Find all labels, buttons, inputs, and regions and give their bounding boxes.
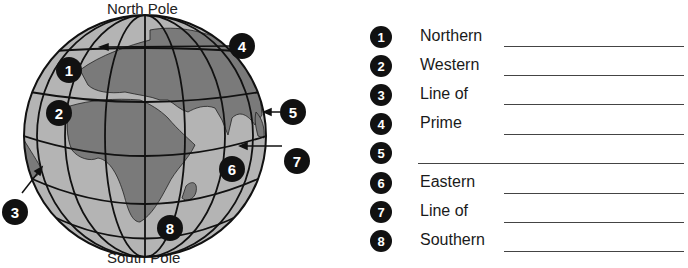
worksheet-row-5: 5 [370,140,688,170]
term-label: Prime [420,114,462,132]
term-label: Line of [420,85,468,103]
globe-callout-6: 6 [219,156,245,182]
answer-blank[interactable] [504,104,684,105]
term-label: Northern [420,27,482,45]
worksheet-row-3: 3 Line of [370,82,688,112]
worksheet-row-2: 2 Western [370,53,688,83]
number-badge: 4 [370,113,392,135]
answer-blank[interactable] [504,46,684,47]
globe-callout-8: 8 [157,215,183,241]
globe-callout-3: 3 [2,199,28,225]
globe-callout-4: 4 [229,33,255,59]
worksheet-row-6: 6 Eastern [370,170,688,200]
answer-blank[interactable] [504,134,684,135]
number-badge: 2 [370,55,392,77]
term-label: Southern [420,231,485,249]
number-badge: 6 [370,172,392,194]
answer-blank[interactable] [504,75,684,76]
number-badge: 7 [370,201,392,223]
number-badge: 5 [370,142,392,164]
answer-blank[interactable] [504,222,684,223]
globe-callout-2: 2 [46,100,72,126]
answer-blank[interactable] [504,193,684,194]
worksheet-row-1: 1 Northern [370,24,688,54]
worksheet-row-8: 8 Southern [370,228,688,258]
term-label: Western [420,56,479,74]
term-label: Eastern [420,173,475,191]
worksheet-row-4: 4 Prime [370,111,688,141]
term-label: Line of [420,202,468,220]
globe-diagram: North Pole South Pole [0,0,330,268]
answer-blank[interactable] [418,163,684,164]
answer-blank[interactable] [504,251,684,252]
number-badge: 3 [370,84,392,106]
globe-callout-1: 1 [56,57,82,83]
number-badge: 1 [370,26,392,48]
globe-callout-7: 7 [284,148,310,174]
number-badge: 8 [370,230,392,252]
globe-callout-5: 5 [280,99,306,125]
worksheet-row-7: 7 Line of [370,199,688,229]
